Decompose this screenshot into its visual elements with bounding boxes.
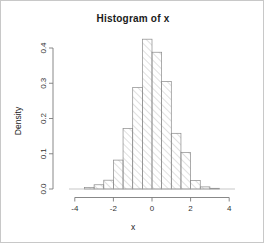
histogram-bar (191, 181, 201, 189)
x-axis-tick-label: -2 (110, 204, 118, 213)
histogram-bar (113, 160, 123, 189)
histogram-bar (142, 39, 152, 189)
y-axis: 0.00.10.20.30.4 (39, 42, 53, 195)
histogram-bar (152, 52, 162, 189)
histogram-bar (171, 133, 181, 189)
histogram-bars (84, 39, 219, 189)
y-axis-tick-label: 0.2 (39, 112, 48, 124)
histogram-bar (133, 87, 143, 189)
y-axis-tick-label: 0.1 (39, 148, 48, 160)
x-axis-tick-label: -4 (71, 204, 79, 213)
histogram-plot: -4-2024 0.00.10.20.30.4 x Density (1, 1, 264, 243)
histogram-bar (123, 128, 133, 189)
y-axis-tick-label: 0.4 (39, 42, 48, 54)
x-axis: -4-2024 (69, 189, 235, 213)
histogram-bar (162, 81, 172, 189)
y-axis-title: Density (13, 106, 23, 135)
histogram-bar (104, 180, 114, 189)
y-axis-tick-label: 0.0 (39, 183, 48, 195)
histogram-bar (94, 185, 104, 189)
y-axis-tick-label: 0.3 (39, 77, 48, 89)
x-axis-tick-label: 4 (227, 204, 232, 213)
histogram-bar (181, 152, 191, 189)
histogram-screenshot: Histogram of x -4-2024 0.00.10.20.30.4 x… (0, 0, 264, 243)
x-axis-tick-label: 2 (188, 204, 193, 213)
x-axis-title: x (131, 222, 136, 232)
x-axis-tick-label: 0 (150, 204, 155, 213)
